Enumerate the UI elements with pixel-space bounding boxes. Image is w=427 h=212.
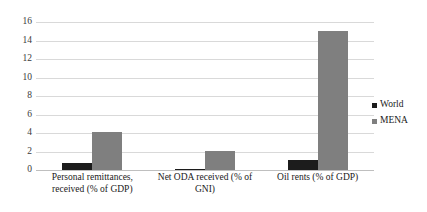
gridline-4 [36, 133, 374, 134]
gridline-10 [36, 78, 374, 79]
gridline-16 [36, 22, 374, 23]
x-category-label-1: Personal remittances, received (% of GDP… [36, 172, 149, 195]
gridline-6 [36, 115, 374, 116]
y-tick-label-4: 4 [27, 128, 32, 138]
gridline-8 [36, 96, 374, 97]
x-category-label-3: Oil rents (% of GDP) [261, 172, 374, 184]
y-tick-label-16: 16 [23, 17, 33, 27]
legend-swatch-mena-icon [372, 119, 377, 124]
legend-item-world[interactable]: World [372, 97, 427, 113]
gridline-2 [36, 152, 374, 153]
gridline-0 [36, 170, 374, 171]
x-axis: Personal remittances, received (% of GDP… [36, 172, 374, 212]
bar-chart: 0246810121416 Personal remittances, rece… [0, 0, 427, 212]
y-axis: 0246810121416 [0, 22, 32, 170]
legend-label-world: World [380, 100, 404, 110]
y-tick-label-12: 12 [23, 54, 33, 64]
y-tick-label-6: 6 [27, 110, 32, 120]
y-tick-label-14: 14 [23, 36, 33, 46]
y-tick-label-2: 2 [27, 147, 32, 157]
y-tick-label-8: 8 [27, 91, 32, 101]
legend-label-mena: MENA [380, 116, 408, 126]
x-category-label-2: Net ODA received (% of GNI) [149, 172, 262, 195]
legend-swatch-world-icon [372, 103, 377, 108]
plot-area [36, 22, 374, 170]
gridline-14 [36, 41, 374, 42]
legend-item-mena[interactable]: MENA [372, 113, 427, 129]
y-tick-label-0: 0 [27, 165, 32, 175]
chart-legend: World MENA [372, 97, 427, 129]
gridline-12 [36, 59, 374, 60]
y-tick-label-10: 10 [23, 73, 33, 83]
